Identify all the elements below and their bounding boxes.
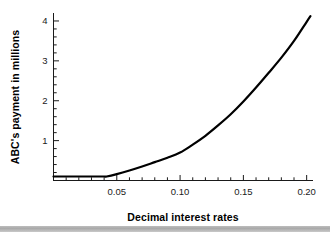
tick-label: 1: [42, 135, 47, 146]
y-axis-title: ABC's payment in millions: [9, 30, 21, 165]
tick-label: 3: [42, 55, 47, 66]
x-axis-title: Decimal interest rates: [127, 211, 238, 223]
chart-figure: 0.050.100.150.20 1234 Decimal interest r…: [0, 0, 330, 232]
tick-label: 0.10: [171, 186, 190, 197]
footer-strip: [0, 226, 330, 232]
tick-label: 2: [42, 95, 47, 106]
tick-label: 0.05: [108, 186, 127, 197]
tick-label: 4: [42, 15, 47, 26]
tick-label: 0.20: [297, 186, 316, 197]
plot-background: [0, 0, 330, 226]
tick-label: 0.15: [234, 186, 253, 197]
chart-plot: 0.050.100.150.20 1234 Decimal interest r…: [0, 0, 330, 232]
